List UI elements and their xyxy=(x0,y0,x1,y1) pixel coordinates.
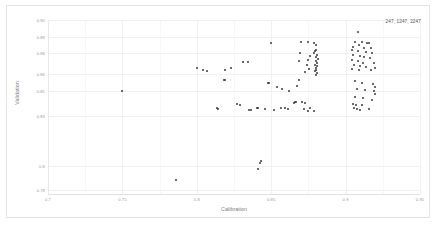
x-axis-line xyxy=(48,194,420,195)
data-point xyxy=(304,102,306,104)
x-axis-tick-label: 0.95 xyxy=(405,197,435,202)
chart-container: 0.900.890.880.860.850.830.80.78 0.70.750… xyxy=(6,5,430,218)
data-point xyxy=(306,64,308,66)
y-axis-tick-label: 0.89 xyxy=(15,34,45,39)
data-point xyxy=(370,69,372,71)
data-point xyxy=(206,70,208,72)
data-point xyxy=(316,62,318,64)
data-point xyxy=(315,74,317,76)
data-point xyxy=(175,179,177,181)
data-point xyxy=(353,107,355,109)
y-axis-tick-label: 0.88 xyxy=(15,51,45,56)
data-point xyxy=(236,103,238,105)
data-point xyxy=(354,80,356,82)
x-axis-tick-label: 0.85 xyxy=(256,197,286,202)
data-point xyxy=(368,108,370,110)
x-axis-ticks: 0.70.750.80.850.90.95 xyxy=(48,197,420,205)
data-point xyxy=(307,41,309,43)
data-point xyxy=(374,67,376,69)
data-point xyxy=(352,103,354,105)
data-point xyxy=(373,90,375,92)
data-point xyxy=(361,104,363,106)
data-point xyxy=(242,61,244,63)
data-point xyxy=(356,108,358,110)
y-axis-line xyxy=(48,20,49,194)
gridline-horizontal xyxy=(48,116,420,117)
data-point xyxy=(287,108,289,110)
data-point xyxy=(304,71,306,73)
data-point xyxy=(196,67,198,69)
data-point xyxy=(307,59,309,61)
gridline-horizontal xyxy=(48,37,420,38)
data-point xyxy=(313,110,315,112)
series-legend-label: 247, 1247, 2247 xyxy=(386,19,421,24)
data-point xyxy=(354,41,356,43)
data-point xyxy=(276,86,278,88)
data-point xyxy=(239,104,241,106)
data-point xyxy=(121,90,123,92)
data-point xyxy=(371,99,373,101)
gridline-horizontal xyxy=(48,53,420,54)
data-point xyxy=(224,79,226,81)
gridline-horizontal xyxy=(48,20,420,21)
gridline-vertical-minor xyxy=(85,20,86,194)
plot-area xyxy=(48,20,420,194)
data-point xyxy=(357,31,359,33)
data-point xyxy=(363,47,365,49)
gridline-vertical xyxy=(346,20,347,194)
data-point xyxy=(351,59,353,61)
data-point xyxy=(359,55,361,57)
data-point xyxy=(362,62,364,64)
data-point xyxy=(296,85,298,87)
x-axis-tick-label: 0.8 xyxy=(182,197,212,202)
data-point xyxy=(298,79,300,81)
y-axis-tick-label: 0.90 xyxy=(15,18,45,23)
data-point xyxy=(359,65,361,67)
gridline-vertical xyxy=(122,20,123,194)
gridline-horizontal xyxy=(48,190,420,191)
data-point xyxy=(307,110,309,112)
y-axis-title: Validation xyxy=(14,63,20,123)
data-point xyxy=(357,60,359,62)
data-point xyxy=(356,88,358,90)
data-point xyxy=(373,62,375,64)
data-point xyxy=(372,83,374,85)
data-point xyxy=(314,64,316,66)
data-point xyxy=(301,101,303,103)
data-point xyxy=(369,57,371,59)
data-point xyxy=(370,47,372,49)
data-point xyxy=(284,107,286,109)
gridline-vertical xyxy=(420,20,421,194)
data-point xyxy=(353,64,355,66)
data-point xyxy=(374,86,376,88)
data-point xyxy=(309,107,311,109)
data-point xyxy=(250,109,252,111)
data-point xyxy=(361,41,363,43)
data-point xyxy=(351,49,353,51)
data-point xyxy=(317,58,319,60)
x-axis-title: Calibration xyxy=(48,206,420,212)
data-point xyxy=(351,68,353,70)
data-point xyxy=(298,60,300,62)
data-point xyxy=(230,67,232,69)
data-point xyxy=(202,69,204,71)
data-point xyxy=(361,82,363,84)
data-point xyxy=(308,68,310,70)
data-point xyxy=(352,46,354,48)
y-axis-tick-label: 0.8 xyxy=(15,164,45,169)
data-point xyxy=(363,56,365,58)
gridline-vertical xyxy=(271,20,272,194)
data-point xyxy=(368,42,370,44)
x-axis-tick-label: 0.7 xyxy=(33,197,63,202)
data-point xyxy=(359,109,361,111)
data-point xyxy=(300,41,302,43)
x-axis-tick-label: 0.9 xyxy=(331,197,361,202)
data-point xyxy=(358,69,360,71)
gridline-horizontal xyxy=(48,74,420,75)
data-point xyxy=(264,108,266,110)
data-point xyxy=(303,108,305,110)
data-point xyxy=(357,50,359,52)
data-point xyxy=(358,44,360,46)
data-point xyxy=(257,107,259,109)
y-axis-tick-label: 0.78 xyxy=(15,187,45,192)
